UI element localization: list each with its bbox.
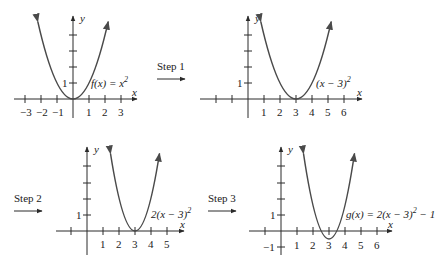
x-tick-label: −3 [20, 106, 32, 118]
function-label: f(x) = x2 [91, 75, 128, 90]
y-tick-label: 1 [62, 77, 68, 89]
x-tick-label: 2 [310, 239, 316, 251]
x-tick-label: 4 [148, 238, 154, 250]
x-tick-label: 3 [326, 239, 332, 251]
y-axis-label: y [287, 143, 293, 155]
graph-stretched: 1 2 3 4 5 1 y x 2(x − 3)2 [56, 143, 191, 255]
x-tick-label: 3 [132, 238, 138, 250]
x-tick-label: 6 [341, 106, 347, 118]
graph-f-x-squared: −3 −2 −1 1 2 3 1 y x f(x) = x2 [14, 12, 137, 118]
y-tick-neg-label: −1 [263, 241, 275, 253]
x-tick-label: 3 [118, 106, 124, 118]
function-label: 2(x − 3)2 [151, 206, 191, 221]
step-3-label: Step 3 [208, 192, 236, 204]
x-tick-label: 6 [374, 239, 380, 251]
x-tick-label: 1 [86, 106, 92, 118]
x-tick-label: 4 [342, 239, 348, 251]
function-label: g(x) = 2(x − 3)2 − 1 [346, 206, 435, 221]
transformation-figure: −3 −2 −1 1 2 3 1 y x f(x) = x2 Step 1 [0, 0, 441, 272]
x-tick-label: 4 [309, 106, 315, 118]
parabola-curve [304, 154, 355, 240]
x-tick-label: 3 [293, 106, 299, 118]
step-1-label: Step 1 [157, 60, 185, 72]
y-tick-label: 1 [237, 77, 243, 89]
step-3: Step 3 [208, 192, 236, 211]
x-tick-label: 5 [164, 238, 170, 250]
x-tick-label: −2 [36, 106, 48, 118]
x-tick-label: 2 [277, 106, 283, 118]
x-tick-label: 2 [102, 106, 108, 118]
graph-shifted-right: 1 2 3 4 5 6 1 y x (x − 3)2 [200, 12, 362, 118]
x-axis-label: x [356, 86, 362, 98]
y-axis-label: y [254, 12, 260, 24]
x-tick-label: 5 [358, 239, 364, 251]
y-tick-label: 1 [270, 209, 276, 221]
x-tick-label: 1 [294, 239, 300, 251]
graph-g-final: 1 2 3 4 5 6 1 −1 y x g(x) = 2(x − 3)2 − … [249, 143, 435, 255]
x-tick-label: 2 [116, 238, 122, 250]
function-label: (x − 3)2 [316, 75, 351, 90]
y-tick-label: 1 [76, 209, 82, 221]
x-tick-label: 5 [325, 106, 331, 118]
y-axis-label: y [93, 143, 99, 155]
y-axis-label: y [79, 12, 85, 24]
x-tick-label: −1 [52, 106, 64, 118]
x-axis-label: x [131, 86, 137, 98]
x-tick-label: 1 [100, 238, 106, 250]
step-2: Step 2 [14, 192, 42, 211]
step-2-label: Step 2 [14, 192, 42, 204]
x-tick-label: 1 [261, 106, 267, 118]
step-1: Step 1 [157, 60, 185, 79]
